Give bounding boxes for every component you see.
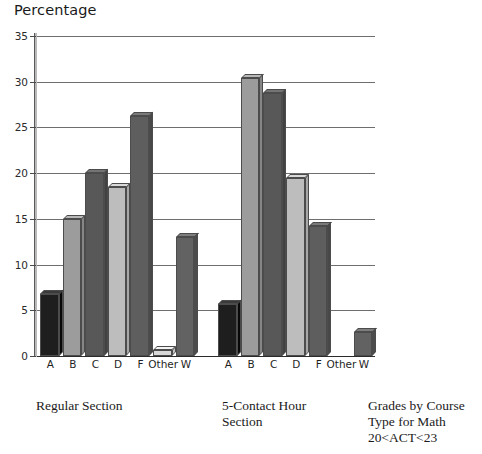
- bar-front: [130, 116, 149, 356]
- bar-front: [63, 219, 82, 356]
- bar-regular-d: [108, 36, 127, 356]
- bar-fivecontact-f: [309, 36, 328, 356]
- bar-front: [309, 226, 328, 356]
- category-label-regular-w: W: [181, 358, 191, 370]
- bar-front: [108, 187, 127, 356]
- category-label-regular-f: F: [138, 358, 144, 370]
- bar-front: [176, 237, 195, 356]
- category-label-fivecontact-f: F: [316, 358, 322, 370]
- bar-side-face: [372, 328, 376, 356]
- y-tick-mark-10: [30, 265, 36, 266]
- bar-front: [85, 173, 104, 356]
- gridline-0: [36, 356, 375, 357]
- y-tick-mark-35: [30, 36, 36, 37]
- y-tick-label-35: 35: [2, 30, 28, 42]
- bar-fivecontact-b: [241, 36, 260, 356]
- category-axis-labels: ABCDFOtherWABCDFOtherW: [36, 358, 375, 376]
- bar-front: [263, 93, 282, 356]
- y-tick-mark-20: [30, 173, 36, 174]
- category-label-fivecontact-c: C: [270, 358, 277, 370]
- y-tick-label-10: 10: [2, 259, 28, 271]
- bar-fivecontact-a: [218, 36, 237, 356]
- y-tick-mark-30: [30, 82, 36, 83]
- category-label-regular-c: C: [92, 358, 99, 370]
- bar-front: [286, 178, 305, 356]
- bar-front: [354, 332, 373, 356]
- category-label-fivecontact-d: D: [292, 358, 300, 370]
- bar-front: [40, 294, 59, 356]
- y-tick-label-20: 20: [2, 167, 28, 179]
- bars-layer: [36, 36, 375, 356]
- chart-title-block: Grades by Course Type for Math 20<ACT<23: [368, 398, 480, 446]
- bar-regular-f: [130, 36, 149, 356]
- bar-fivecontact-c: [263, 36, 282, 356]
- y-tick-label-0: 0: [2, 350, 28, 362]
- caption-five-contact-hour-section: 5-Contact Hour Section: [222, 398, 352, 430]
- bar-regular-other: [153, 36, 172, 356]
- category-label-fivecontact-w: W: [359, 358, 369, 370]
- bar-fivecontact-d: [286, 36, 305, 356]
- y-tick-mark-15: [30, 219, 36, 220]
- y-tick-label-15: 15: [2, 213, 28, 225]
- category-label-regular-a: A: [47, 358, 54, 370]
- caption-regular-section: Regular Section: [36, 398, 186, 414]
- bar-regular-c: [85, 36, 104, 356]
- y-tick-mark-25: [30, 127, 36, 128]
- category-label-regular-other: Other: [148, 358, 178, 370]
- bar-regular-a: [40, 36, 59, 356]
- y-tick-mark-0: [30, 356, 36, 357]
- bar-chart-figure: Percentage ABCDFOtherWABCDFOtherW Regula…: [0, 0, 482, 454]
- y-tick-label-5: 5: [2, 304, 28, 316]
- category-label-regular-b: B: [69, 358, 76, 370]
- y-tick-label-30: 30: [2, 76, 28, 88]
- y-tick-mark-5: [30, 310, 36, 311]
- y-axis-title: Percentage: [14, 2, 97, 18]
- bar-regular-w: [176, 36, 195, 356]
- category-label-fivecontact-other: Other: [327, 358, 357, 370]
- bar-front: [153, 350, 172, 356]
- bar-front: [218, 304, 237, 356]
- bar-regular-b: [63, 36, 82, 356]
- y-tick-label-25: 25: [2, 121, 28, 133]
- category-label-fivecontact-a: A: [225, 358, 232, 370]
- bar-fivecontact-w: [354, 36, 373, 356]
- bar-front: [241, 78, 260, 356]
- bar-side-face: [194, 233, 198, 356]
- bar-fivecontact-other: [331, 36, 350, 356]
- category-label-fivecontact-b: B: [247, 358, 254, 370]
- category-label-regular-d: D: [114, 358, 122, 370]
